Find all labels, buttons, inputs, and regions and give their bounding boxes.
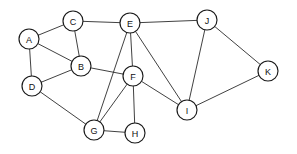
graph-node-label-h: H xyxy=(132,129,139,139)
graph-edge-i-j xyxy=(189,30,205,100)
edges-layer xyxy=(30,20,261,132)
graph-edge-i-k xyxy=(196,75,259,105)
graph-edge-e-j xyxy=(140,20,197,22)
graph-node-label-c: C xyxy=(70,17,77,27)
graph-node-h[interactable]: H xyxy=(125,123,145,143)
graph-edge-c-b xyxy=(75,31,80,56)
graph-node-label-i: I xyxy=(186,106,189,116)
graph-node-c[interactable]: C xyxy=(63,11,83,31)
graph-edge-b-f xyxy=(91,68,123,74)
graph-node-label-d: D xyxy=(29,82,36,92)
graph-edge-f-g xyxy=(100,84,127,122)
graph-node-k[interactable]: K xyxy=(258,61,278,81)
graph-edge-e-f xyxy=(131,33,133,66)
graph-edge-e-g xyxy=(97,32,127,120)
graph-node-g[interactable]: G xyxy=(84,120,104,140)
graph-diagram-canvas: ABCDEFGHIJK xyxy=(0,0,297,154)
graph-edge-d-g xyxy=(40,92,86,124)
graph-node-label-a: A xyxy=(26,35,32,45)
graph-svg: ABCDEFGHIJK xyxy=(0,0,297,154)
graph-edge-a-c xyxy=(38,25,63,35)
graph-edge-g-h xyxy=(104,131,125,133)
graph-node-i[interactable]: I xyxy=(177,100,197,120)
graph-node-label-j: J xyxy=(205,16,210,26)
graph-node-f[interactable]: F xyxy=(123,66,143,86)
graph-node-label-b: B xyxy=(78,62,84,72)
nodes-layer: ABCDEFGHIJK xyxy=(19,10,278,143)
graph-node-a[interactable]: A xyxy=(19,29,39,49)
graph-node-label-f: F xyxy=(130,72,136,82)
graph-edge-b-d xyxy=(41,70,71,82)
graph-edge-a-d xyxy=(30,49,32,76)
graph-node-e[interactable]: E xyxy=(120,13,140,33)
graph-node-b[interactable]: B xyxy=(71,56,91,76)
graph-edge-c-e xyxy=(83,21,120,22)
graph-node-label-g: G xyxy=(90,126,97,136)
graph-edge-f-i xyxy=(141,81,178,104)
graph-node-label-e: E xyxy=(127,19,133,29)
graph-node-label-k: K xyxy=(265,67,271,77)
graph-node-d[interactable]: D xyxy=(22,76,42,96)
graph-edge-e-i xyxy=(135,31,181,101)
graph-node-j[interactable]: J xyxy=(197,10,217,30)
graph-edge-j-k xyxy=(215,26,261,64)
graph-edge-a-b xyxy=(38,44,72,62)
graph-edge-f-h xyxy=(133,86,134,123)
